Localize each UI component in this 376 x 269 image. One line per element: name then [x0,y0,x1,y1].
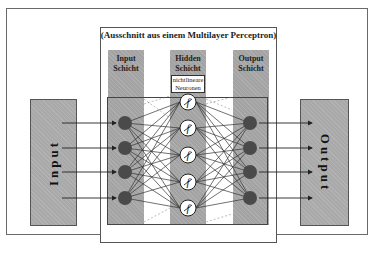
hidden-neuron: f [180,147,196,163]
input-neuron [118,116,132,130]
network-connections: fffff [0,0,376,269]
output-neuron [243,191,257,205]
nonlinear-neurons-annotation: nichtlineare Neuronen [171,75,205,93]
output-neuron [243,116,257,130]
hidden-neuron: f [180,174,196,190]
hidden-neuron: f [180,120,196,136]
output-neuron [243,165,257,179]
input-neuron [118,191,132,205]
output-neuron [243,141,257,155]
hidden-neuron: f [180,94,196,110]
input-neuron [118,165,132,179]
hidden-neuron: f [180,200,196,216]
input-neuron [118,141,132,155]
